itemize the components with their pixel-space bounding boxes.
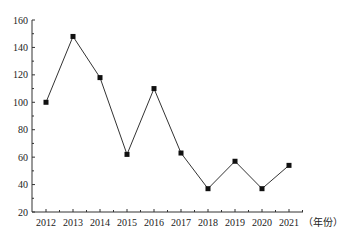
x-axis: 2012201320142015201620172018201920202021: [32, 209, 303, 228]
y-tick-label: 160: [13, 15, 28, 26]
data-point-marker: [71, 34, 76, 39]
x-axis-label: （年份）: [303, 216, 343, 228]
series-line: [46, 36, 289, 188]
x-tick-label: 2017: [171, 217, 191, 228]
x-tick-label: 2016: [144, 217, 164, 228]
data-point-marker: [98, 75, 103, 80]
data-point-marker: [152, 86, 157, 91]
data-point-marker: [179, 151, 184, 156]
x-tick-label: 2013: [63, 217, 83, 228]
data-series: [44, 34, 292, 191]
data-point-marker: [260, 186, 265, 191]
y-tick-label: 80: [18, 124, 28, 135]
y-tick-label: 100: [13, 97, 28, 108]
x-tick-label: 2015: [117, 217, 137, 228]
y-tick-label: 40: [18, 179, 28, 190]
data-point-marker: [287, 163, 292, 168]
data-point-marker: [125, 152, 130, 157]
x-tick-label: 2019: [225, 217, 245, 228]
x-tick-label: 2014: [90, 217, 110, 228]
data-point-marker: [44, 100, 49, 105]
x-tick-label: 2021: [279, 217, 299, 228]
x-tick-label: 2020: [252, 217, 272, 228]
y-tick-label: 140: [13, 42, 28, 53]
y-tick-label: 60: [18, 152, 28, 163]
y-tick-label: 120: [13, 69, 28, 80]
y-tick-label: 20: [18, 207, 28, 218]
data-point-marker: [206, 186, 211, 191]
line-chart: 20406080100120140160 2012201320142015201…: [0, 0, 345, 243]
x-tick-label: 2012: [36, 217, 56, 228]
data-point-marker: [233, 159, 238, 164]
y-axis: 20406080100120140160: [13, 15, 35, 218]
x-tick-label: 2018: [198, 217, 218, 228]
